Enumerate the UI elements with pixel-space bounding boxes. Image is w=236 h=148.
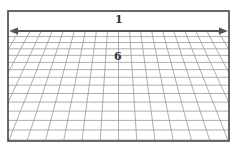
arrowhead-right-icon — [219, 28, 228, 35]
label-center: 6 — [114, 51, 122, 62]
label-top: 1 — [115, 14, 123, 25]
perspective-grid-diagram: 1 6 — [0, 0, 236, 148]
perspective-grid — [0, 31, 236, 140]
arrowhead-left-icon — [9, 28, 18, 35]
